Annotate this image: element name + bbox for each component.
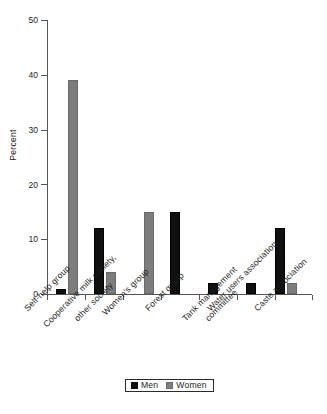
bar-men-water-users-association [246,283,256,294]
y-tick-label-50: 50 [12,16,38,25]
y-tick-label-40: 40 [12,71,38,80]
legend-item-men: Men [131,381,158,390]
bar-women-self-help-group [68,80,78,294]
bar-women-caste-association [287,283,297,294]
clipped-caption-strip [0,405,327,414]
x-axis-labels: Self-help group Cooperative milk society… [0,294,327,384]
y-tick-label-20: 20 [12,181,38,190]
legend-label-women: Women [176,381,206,390]
legend-item-women: Women [166,381,206,390]
legend-swatch-women-icon [166,382,173,389]
legend-label-men: Men [141,381,158,390]
bar-chart-figure: Percent 50 40 30 20 10 0 [0,0,327,414]
bar-women-womens-group [144,212,154,294]
y-tick-label-30: 30 [12,126,38,135]
chart-legend: Men Women [125,379,214,392]
y-tick-label-10: 10 [12,235,38,244]
legend-swatch-men-icon [131,382,138,389]
y-axis-label: Percent [8,110,18,180]
